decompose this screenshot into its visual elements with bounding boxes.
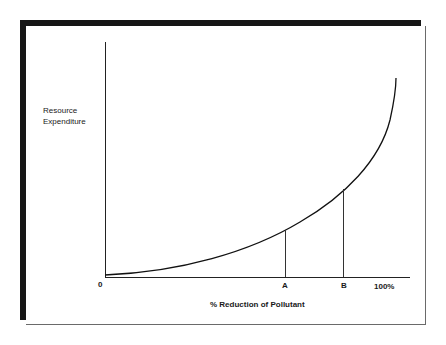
x-axis-label: % Reduction of Pollutant [210, 299, 305, 310]
y-axis-label: Resource Expenditure [43, 105, 86, 127]
expenditure-curve [105, 78, 396, 275]
y-axis-label-line2: Expenditure [43, 116, 86, 127]
chart-plot [0, 0, 446, 345]
tick-a: A [282, 280, 288, 291]
tick-100: 100% [374, 281, 394, 292]
y-axis-label-line1: Resource [43, 105, 86, 116]
tick-zero: 0 [98, 279, 102, 290]
tick-b: B [341, 280, 347, 291]
